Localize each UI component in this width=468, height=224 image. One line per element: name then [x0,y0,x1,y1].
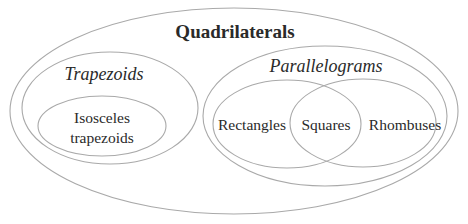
rectangles-label: Rectangles [218,116,286,133]
isosceles-label-line1: Isosceles [74,109,130,126]
isosceles-trapezoids-set-outline [38,96,166,156]
rhombuses-label: Rhombuses [369,116,441,133]
squares-label: Squares [301,116,350,133]
quadrilaterals-euler-diagram: Quadrilaterals Trapezoids Isosceles trap… [0,0,468,224]
quadrilaterals-label: Quadrilaterals [175,21,294,42]
trapezoids-label: Trapezoids [64,64,143,84]
isosceles-label-line2: trapezoids [70,129,134,146]
parallelograms-label: Parallelograms [268,56,382,76]
